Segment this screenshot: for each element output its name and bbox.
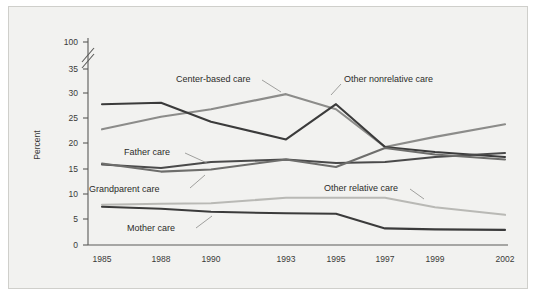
- x-tick-label-1995: 1995: [327, 254, 346, 264]
- y-tick-label-30: 30: [69, 88, 79, 98]
- series-line-center-based-care: [102, 94, 505, 147]
- x-tick-label-2002: 2002: [496, 254, 515, 264]
- series-label-center-based: Center-based care: [176, 74, 251, 84]
- y-tick-label-35: 35: [69, 64, 79, 74]
- series-label-other-nonrelative: Other nonrelative care: [344, 74, 433, 84]
- x-tick-label-1990: 1990: [202, 254, 221, 264]
- series-layer: [102, 94, 505, 230]
- y-tick-label-15: 15: [69, 164, 79, 174]
- figure-container: 100 35 30 25 20 15 10 5 0 Percent 1985 1…: [0, 0, 536, 299]
- x-tick-label-1999: 1999: [426, 254, 445, 264]
- y-tick-label-100: 100: [64, 37, 78, 47]
- leader-line-center-based: [262, 80, 281, 92]
- series-label-grandparent: Grandparent care: [89, 184, 160, 194]
- series-label-other-relative: Other relative care: [324, 183, 398, 193]
- leader-line-grandparent: [190, 175, 205, 188]
- series-label-mother: Mother care: [127, 223, 175, 233]
- x-tick-label-1988: 1988: [152, 254, 171, 264]
- leader-line-other-nonrelative: [331, 84, 341, 95]
- y-tick-label-20: 20: [69, 138, 79, 148]
- line-chart: 100 35 30 25 20 15 10 5 0 Percent 1985 1…: [0, 0, 536, 299]
- y-tick-label-0: 0: [73, 240, 78, 250]
- leader-line-other-relative: [410, 189, 424, 199]
- y-tick-label-10: 10: [69, 189, 79, 199]
- leader-line-father: [185, 153, 207, 163]
- series-line-other-relative-care: [102, 198, 505, 215]
- y-tick-label-25: 25: [69, 113, 79, 123]
- series-label-father: Father care: [124, 147, 170, 157]
- leader-line-mother: [196, 216, 212, 228]
- y-tick-marks: [83, 42, 88, 245]
- y-axis-title: Percent: [32, 130, 42, 160]
- x-tick-label-1997: 1997: [376, 254, 395, 264]
- y-tick-label-5: 5: [73, 214, 78, 224]
- x-tick-label-1985: 1985: [93, 254, 112, 264]
- x-tick-label-1993: 1993: [277, 254, 296, 264]
